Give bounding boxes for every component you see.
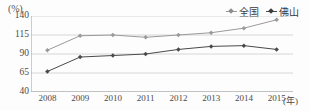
data-point-marker xyxy=(209,44,214,49)
gridlines xyxy=(31,16,293,92)
data-point-marker xyxy=(176,33,181,38)
x-axis-tick: 2010 xyxy=(104,94,122,103)
data-point-marker xyxy=(111,33,116,38)
data-point-marker xyxy=(209,30,214,35)
legend-marker-foshan-icon xyxy=(266,8,277,16)
x-axis-tick: 2012 xyxy=(169,94,187,103)
x-axis-tick: 2008 xyxy=(38,94,56,103)
x-axis-tick-labels: 20082009201020112012201320142015 xyxy=(31,94,293,108)
x-axis-tick: 2011 xyxy=(137,94,155,103)
line-chart-figure: (%) 全国 佛山 140115906540 20082009201020112… xyxy=(0,0,309,111)
data-point-marker xyxy=(176,47,181,52)
data-point-marker xyxy=(242,26,247,31)
x-axis-tick: 2009 xyxy=(71,94,89,103)
plot-area xyxy=(31,16,293,92)
data-point-marker xyxy=(45,48,50,53)
data-point-marker xyxy=(143,35,148,40)
series-line-foshan xyxy=(47,46,276,72)
data-series-layer xyxy=(45,18,279,74)
data-point-marker xyxy=(78,33,83,38)
x-axis-tick: 2013 xyxy=(202,94,220,103)
data-point-marker xyxy=(242,43,247,48)
data-point-marker xyxy=(143,52,148,57)
y-axis-tick: 65 xyxy=(20,68,30,78)
y-axis-tick: 40 xyxy=(20,87,30,97)
x-axis-tick: 2014 xyxy=(235,94,253,103)
data-point-marker xyxy=(274,47,279,52)
x-axis-unit-label: (年) xyxy=(283,94,298,107)
y-axis-tick-labels: 140115906540 xyxy=(0,16,29,92)
y-axis-tick: 115 xyxy=(15,30,29,40)
y-axis-tick: 90 xyxy=(20,49,30,59)
plot-svg xyxy=(31,16,293,92)
data-point-marker xyxy=(274,18,279,23)
legend-marker-national-icon xyxy=(226,8,237,16)
data-point-marker xyxy=(78,55,83,60)
y-axis-tick: 140 xyxy=(15,11,29,21)
